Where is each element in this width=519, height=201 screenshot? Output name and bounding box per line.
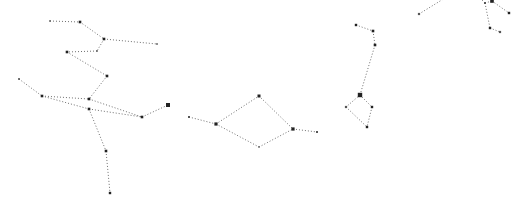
star-icon — [49, 20, 51, 22]
dotted-connector-line — [356, 25, 373, 31]
dotted-connector-line — [50, 21, 80, 22]
bright-star-icon — [358, 93, 362, 97]
constellation-diagram — [0, 0, 519, 201]
star-icon — [66, 51, 69, 54]
constellation-middle-diamond-stars — [188, 95, 318, 148]
star-icon — [291, 127, 294, 130]
star-icon — [105, 150, 108, 153]
dotted-connector-line — [216, 96, 259, 124]
star-icon — [96, 50, 98, 52]
dotted-connector-line — [19, 79, 42, 96]
dotted-connector-line — [80, 22, 104, 39]
dotted-connector-line — [67, 52, 107, 76]
dotted-connector-line — [492, 1, 509, 13]
constellation-top-right-figure-lines — [419, 0, 509, 32]
dotted-connector-line — [360, 45, 375, 95]
star-icon — [103, 38, 106, 41]
star-icon — [418, 13, 420, 15]
star-icon — [88, 108, 91, 111]
star-icon — [371, 106, 373, 108]
dotted-connector-line — [89, 109, 142, 117]
constellation-lines — [19, 0, 509, 193]
bright-star-icon — [166, 103, 170, 107]
star-icon — [508, 12, 510, 14]
star-icon — [372, 30, 375, 33]
constellation-left-figure-stars — [18, 20, 170, 194]
constellation-stars — [18, 0, 510, 194]
dotted-connector-line — [89, 99, 142, 117]
constellation-middle-diamond-lines — [189, 96, 317, 147]
bright-star-icon — [490, 0, 494, 3]
star-icon — [141, 116, 144, 119]
dotted-connector-line — [89, 109, 106, 151]
star-icon — [188, 116, 190, 118]
constellation-right-figure-stars — [345, 24, 376, 128]
dotted-connector-line — [104, 39, 157, 44]
star-icon — [345, 106, 347, 108]
star-icon — [484, 2, 486, 4]
dotted-connector-line — [346, 107, 367, 127]
star-icon — [156, 43, 158, 45]
star-icon — [316, 131, 318, 133]
dotted-connector-line — [367, 107, 372, 127]
constellation-top-right-figure-stars — [418, 0, 510, 33]
star-icon — [258, 95, 261, 98]
dotted-connector-line — [97, 39, 104, 51]
star-icon — [374, 44, 377, 47]
star-icon — [41, 95, 44, 98]
dotted-connector-line — [259, 96, 293, 129]
dotted-connector-line — [42, 96, 89, 99]
dotted-connector-line — [419, 0, 445, 14]
dotted-connector-line — [67, 51, 97, 52]
dotted-connector-line — [485, 3, 490, 28]
star-icon — [18, 78, 20, 80]
star-icon — [109, 192, 111, 194]
dotted-connector-line — [106, 151, 110, 193]
dotted-connector-line — [89, 76, 107, 99]
star-icon — [258, 146, 259, 147]
star-icon — [214, 122, 217, 125]
dotted-connector-line — [216, 124, 259, 147]
dotted-connector-line — [42, 96, 89, 109]
star-icon — [489, 27, 491, 29]
dotted-connector-line — [142, 105, 168, 117]
star-icon — [366, 126, 368, 128]
dotted-connector-line — [293, 129, 317, 132]
star-icon — [88, 98, 91, 101]
star-icon — [499, 31, 501, 33]
star-icon — [355, 24, 357, 26]
star-icon — [106, 75, 109, 78]
dotted-connector-line — [189, 117, 216, 124]
star-icon — [79, 21, 82, 24]
dotted-connector-line — [373, 31, 375, 45]
dotted-connector-line — [490, 28, 500, 32]
constellation-left-figure-lines — [19, 21, 168, 193]
constellation-right-figure-lines — [346, 25, 375, 127]
dotted-connector-line — [259, 129, 293, 147]
